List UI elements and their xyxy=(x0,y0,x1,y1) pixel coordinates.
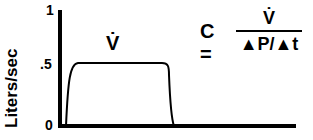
formula-fraction: V̇ ▲P/▲t xyxy=(236,8,302,55)
fraction-bar xyxy=(236,30,302,32)
formula-lhs: C = xyxy=(200,20,214,66)
formula-numerator: V̇ xyxy=(236,8,302,30)
formula-denominator: ▲P/▲t xyxy=(236,34,302,55)
flow-curve xyxy=(66,63,174,126)
series-label: V̇ xyxy=(106,32,119,55)
